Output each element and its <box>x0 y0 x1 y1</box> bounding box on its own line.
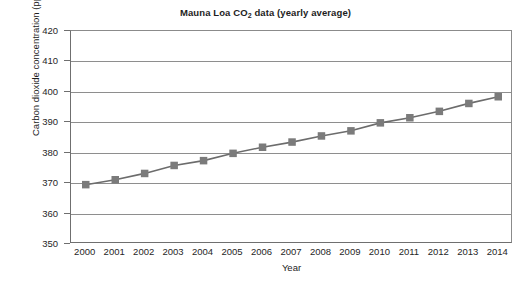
data-point-2000 <box>82 181 90 189</box>
data-point-2007 <box>288 138 296 146</box>
data-point-2003 <box>170 162 178 170</box>
y-tick-label-350: 350 <box>24 238 58 249</box>
x-tick-label-2014: 2014 <box>480 246 514 257</box>
x-axis-title: Year <box>70 262 513 273</box>
data-series <box>71 31 513 244</box>
y-tick-label-390: 390 <box>24 116 58 127</box>
plot-area <box>70 30 512 243</box>
data-point-2013 <box>465 100 473 108</box>
data-point-2011 <box>406 114 414 122</box>
chart-title-text-after: data (yearly average) <box>252 7 351 18</box>
y-tick-label-420: 420 <box>24 25 58 36</box>
y-tick-mark-350 <box>64 243 70 244</box>
chart-screenshot: Mauna Loa CO2 data (yearly average) Carb… <box>0 0 531 282</box>
y-tick-label-380: 380 <box>24 146 58 157</box>
y-tick-label-360: 360 <box>24 207 58 218</box>
data-point-2005 <box>229 150 237 158</box>
y-tick-label-370: 370 <box>24 177 58 188</box>
chart-title-text-before: Mauna Loa CO <box>180 7 248 18</box>
data-point-2006 <box>259 144 267 152</box>
series-markers <box>82 93 502 188</box>
data-point-2010 <box>377 119 385 127</box>
data-point-2009 <box>347 127 355 135</box>
data-point-2002 <box>141 170 149 178</box>
data-point-2012 <box>436 108 444 116</box>
data-point-2008 <box>318 132 326 140</box>
y-tick-label-400: 400 <box>24 85 58 96</box>
data-point-2014 <box>495 93 503 101</box>
y-tick-label-410: 410 <box>24 55 58 66</box>
data-point-2001 <box>112 176 120 184</box>
chart-title: Mauna Loa CO2 data (yearly average) <box>0 7 531 19</box>
data-point-2004 <box>200 157 208 165</box>
